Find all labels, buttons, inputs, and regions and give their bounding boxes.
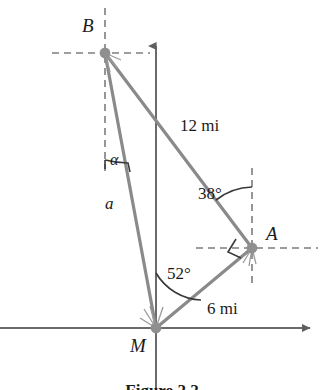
angle-label-alpha: α <box>110 152 118 168</box>
point-label-a: A <box>266 224 278 243</box>
vertex-dot-b <box>100 48 111 59</box>
vertex-dot-m <box>151 323 162 334</box>
geometry-diagram <box>0 0 324 390</box>
segment-b-to-a <box>105 53 252 248</box>
figure-caption: Figure 2.2 <box>0 381 324 390</box>
figure-container: B A M α a 12 mi 6 mi 38° 52° Figure 2.2 <box>0 0 324 390</box>
point-label-m: M <box>130 336 146 355</box>
vertex-dot-a <box>247 243 258 254</box>
side-label-a: a <box>105 195 114 212</box>
angle-label-52: 52° <box>167 265 191 282</box>
point-label-b: B <box>82 16 94 35</box>
angle-label-38: 38° <box>198 185 222 202</box>
length-label-ma: 6 mi <box>207 300 238 317</box>
length-label-ba: 12 mi <box>180 117 219 134</box>
segment-m-to-b <box>105 53 156 328</box>
